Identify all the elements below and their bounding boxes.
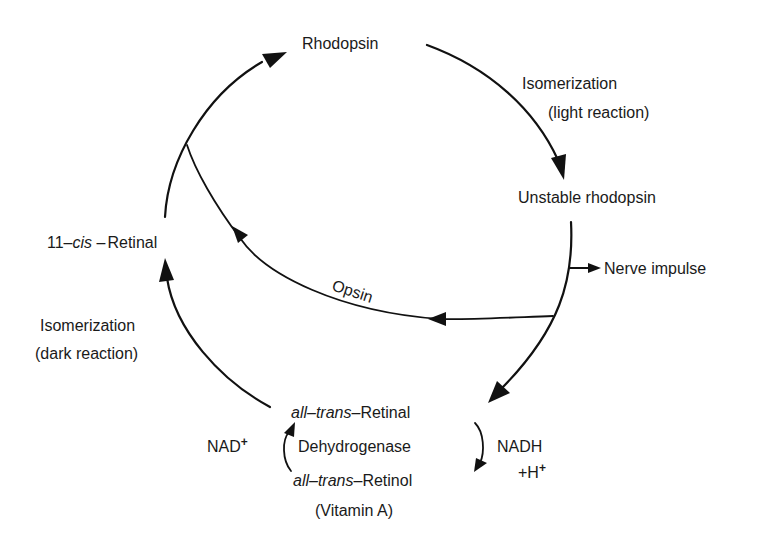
- node-all-trans-retinal: all–trans–Retinal: [291, 404, 410, 421]
- arrow-trans-retinal-to-cis-retinal: [159, 258, 270, 407]
- label-opsin: Opsin: [330, 277, 375, 306]
- arrowhead-icon: [474, 458, 487, 472]
- cofactor-nadh: NADH: [497, 438, 542, 455]
- node-all-trans-retinol: all–trans–Retinol: [293, 472, 412, 489]
- node-rhodopsin: Rhodopsin: [302, 35, 379, 52]
- arrow-nerve-impulse: [569, 263, 601, 273]
- node-nerve-impulse: Nerve impulse: [604, 260, 706, 277]
- label-vitamin-a: (Vitamin A): [315, 502, 393, 519]
- arrow-rhodopsin-to-unstable: [427, 45, 566, 180]
- node-unstable-rhodopsin: Unstable rhodopsin: [518, 189, 656, 206]
- cofactor-nad-plus: NAD+: [207, 435, 248, 455]
- arrow-retinol-to-retinal: [284, 422, 295, 471]
- arrowhead-icon: [262, 52, 287, 68]
- arrowhead-icon: [232, 226, 248, 243]
- cofactor-h-plus: +H+: [518, 461, 546, 481]
- arrowhead-icon: [588, 263, 601, 273]
- rhodopsin-cycle-diagram: Rhodopsin Isomerization (light reaction)…: [0, 0, 784, 542]
- arrow-cis-retinal-to-rhodopsin: [165, 52, 287, 217]
- label-dehydrogenase: Dehydrogenase: [298, 438, 411, 455]
- arrowhead-icon: [284, 422, 295, 437]
- label-dark-isomerization-line2: (dark reaction): [35, 345, 138, 362]
- node-11-cis-retinal: 11–cis –Retinal: [47, 234, 157, 251]
- label-light-isomerization-line1: Isomerization: [522, 75, 617, 92]
- label-dark-isomerization-line1: Isomerization: [40, 317, 135, 334]
- arrowhead-icon: [551, 154, 566, 180]
- arrow-unstable-to-trans-retinal: [488, 222, 571, 403]
- label-light-isomerization-line2: (light reaction): [548, 104, 649, 121]
- arrowhead-icon: [159, 258, 174, 282]
- arrow-retinal-to-retinol: [474, 423, 487, 472]
